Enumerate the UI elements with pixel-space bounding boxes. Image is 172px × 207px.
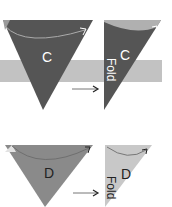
right-arrow-icon: [72, 86, 98, 92]
step-d-folded-label: D: [121, 166, 131, 182]
folding-diagram: C C Fold D D Fold: [0, 0, 172, 207]
step-d-label: D: [44, 165, 54, 181]
fold-label-d: Fold: [104, 176, 118, 199]
right-arrow-icon: [73, 190, 98, 196]
step-c-folded-label: C: [120, 47, 130, 63]
step-d-shape: D: [5, 145, 93, 207]
step-d-folded-shape: D Fold: [104, 145, 152, 207]
fold-label-c: Fold: [104, 58, 118, 81]
step-c-label: C: [42, 49, 52, 65]
